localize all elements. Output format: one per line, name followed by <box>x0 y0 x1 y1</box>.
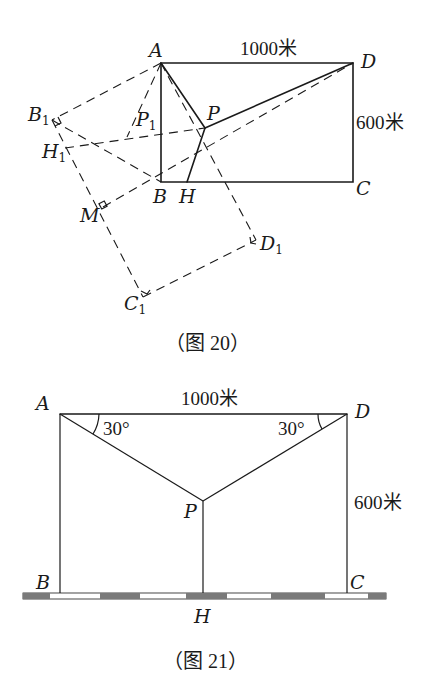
label-m: M <box>79 204 100 226</box>
figure-20: A D B H C P B1 H1 P1 M D1 C1 1000米 600米 … <box>27 38 404 354</box>
label-p: P <box>183 500 198 522</box>
segment-ap <box>60 414 203 501</box>
label-h1: H1 <box>41 140 66 165</box>
label-c: C <box>350 571 365 593</box>
label-b1: B1 <box>27 103 50 128</box>
segment-dp <box>203 414 347 501</box>
right-angle-b1 <box>55 117 61 126</box>
angle-arc-d <box>318 414 322 429</box>
length-dc: 600米 <box>356 112 404 133</box>
length-dc: 600米 <box>354 492 402 513</box>
dashed-h1-p <box>65 128 205 148</box>
figure-21: A D B C P H 1000米 600米 30° 30° （图 21） <box>23 388 402 672</box>
label-b: B <box>152 185 167 207</box>
label-b: B <box>35 571 50 593</box>
ground-strip <box>23 593 386 599</box>
segment-pd <box>205 63 353 128</box>
dashed-c1-d1 <box>143 240 256 297</box>
right-angle-c1 <box>141 290 150 294</box>
label-a: A <box>34 392 50 414</box>
caption-figure-21: （图 21） <box>163 650 248 672</box>
caption-figure-20: （图 20） <box>165 332 250 354</box>
geometry-figures: A D B H C P B1 H1 P1 M D1 C1 1000米 600米 … <box>0 0 434 675</box>
length-ad: 1000米 <box>181 388 238 409</box>
label-h: H <box>193 605 211 627</box>
right-angle-m <box>99 201 107 209</box>
label-h: H <box>178 185 196 207</box>
angle-label-a: 30° <box>103 418 130 439</box>
segment-ap <box>161 63 205 128</box>
dashed-a-d1 <box>161 63 256 240</box>
dashed-m-d <box>103 63 353 207</box>
rectangle-abcd <box>161 63 353 182</box>
label-d: D <box>360 50 376 72</box>
angle-arc-a <box>93 414 99 434</box>
label-c: C <box>356 177 371 199</box>
length-ad: 1000米 <box>240 38 297 59</box>
angle-label-d: 30° <box>278 418 305 439</box>
segment-ph <box>187 128 205 182</box>
label-p: P <box>206 102 221 124</box>
label-p1: P1 <box>135 108 156 133</box>
label-d1: D1 <box>259 232 283 257</box>
label-a: A <box>147 39 163 61</box>
label-d: D <box>354 400 370 422</box>
